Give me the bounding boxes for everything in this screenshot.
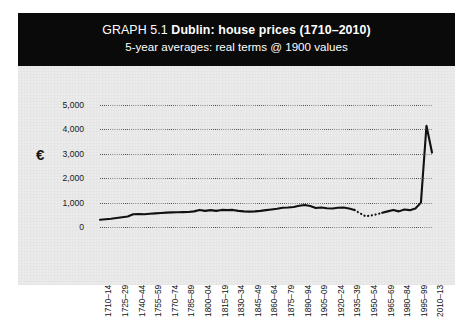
y-tick-label: 4,000 xyxy=(40,124,84,134)
x-tick-label: 1980–84 xyxy=(402,285,412,317)
gridline xyxy=(100,227,432,228)
gridline xyxy=(100,203,432,204)
x-tick-label: 1905–09 xyxy=(319,285,329,317)
x-tick-label: 1860–64 xyxy=(269,285,279,317)
x-tick-label: 1995–99 xyxy=(419,285,429,317)
x-tick-label: 1740–44 xyxy=(137,285,147,317)
price-line-series xyxy=(100,66,432,285)
figure-header: GRAPH 5.1 Dublin: house prices (1710–201… xyxy=(18,13,455,66)
plot-wrapper: € 01,0002,0003,0004,0005,000 1710–141725… xyxy=(18,66,455,285)
y-tick-label: 1,000 xyxy=(40,198,84,208)
figure-panel: GRAPH 5.1 Dublin: house prices (1710–201… xyxy=(18,13,455,285)
x-tick-label: 1710–14 xyxy=(103,285,113,317)
x-tick-label: 1770–74 xyxy=(170,285,180,317)
y-axis: 01,0002,0003,0004,0005,000 xyxy=(40,66,84,285)
graph-title-text: Dublin: house prices (1710–2010) xyxy=(171,23,370,37)
x-tick-label: 1785–89 xyxy=(186,285,196,317)
gridline xyxy=(100,129,432,130)
plot-area xyxy=(100,66,432,285)
figure-title: GRAPH 5.1 Dublin: house prices (1710–201… xyxy=(18,22,455,38)
x-tick-label: 1950–54 xyxy=(369,285,379,317)
x-tick-label: 1830–34 xyxy=(236,285,246,317)
x-tick-label: 1890–94 xyxy=(303,285,313,317)
y-tick-label: 5,000 xyxy=(40,100,84,110)
x-axis: 1710–141725–291740–441755–591770–741785–… xyxy=(100,285,432,321)
gridline xyxy=(100,178,432,179)
x-tick-label: 1965–69 xyxy=(386,285,396,317)
x-tick-label: 1800–04 xyxy=(203,285,213,317)
price-line-estimated-dotted xyxy=(355,210,383,216)
y-tick-label: 3,000 xyxy=(40,149,84,159)
x-tick-label: 1725–29 xyxy=(120,285,130,317)
y-tick-label: 2,000 xyxy=(40,173,84,183)
x-tick-label: 1815–19 xyxy=(220,285,230,317)
x-tick-label: 2010–13 xyxy=(435,285,445,317)
gridline xyxy=(100,154,432,155)
price-line-solid-early xyxy=(100,205,355,220)
x-tick-label: 1845–49 xyxy=(253,285,263,317)
gridline xyxy=(100,105,432,106)
price-line-solid-late xyxy=(382,126,432,213)
x-tick-label: 1920–24 xyxy=(336,285,346,317)
x-tick-label: 1935–39 xyxy=(352,285,362,317)
figure-subtitle: 5-year averages: real terms @ 1900 value… xyxy=(18,39,455,55)
graph-number: GRAPH 5.1 xyxy=(102,23,168,37)
x-tick-label: 1755–59 xyxy=(153,285,163,317)
y-tick-label: 0 xyxy=(40,222,84,232)
x-tick-label: 1875–79 xyxy=(286,285,296,317)
